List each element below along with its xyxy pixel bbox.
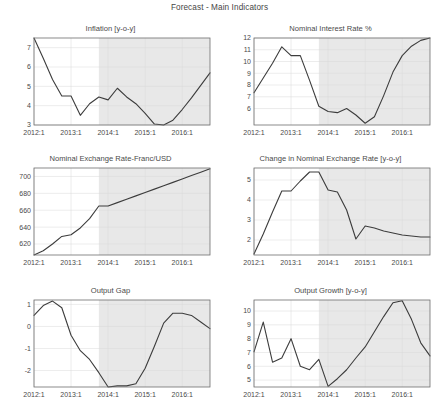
x-axis-tick-label: 2014:1	[97, 259, 119, 266]
chart-svg: 6206406606807002012:12013:12014:12015:12…	[8, 165, 213, 270]
plot-area: 67891011122012:12013:12014:12015:12016:1	[228, 35, 433, 140]
y-axis-tick-label: 2	[247, 236, 251, 243]
y-axis-tick-label: 10	[243, 58, 251, 65]
panel-title: Nominal Exchange Rate-Franc/USD	[8, 154, 213, 163]
y-axis-tick-label: 7	[247, 349, 251, 356]
x-axis-tick-label: 2013:1	[60, 259, 82, 266]
x-axis-tick-label: 2016:1	[391, 391, 413, 398]
y-axis-tick-label: 11	[244, 46, 251, 53]
y-axis-tick-label: 680	[19, 190, 31, 197]
x-axis-tick-label: 2014:1	[317, 129, 339, 136]
y-axis-tick-label: 10	[243, 307, 251, 314]
panel-inflation: Inflation [y-o-y] 345672012:12013:12014:…	[8, 24, 213, 140]
y-axis-tick-label: 9	[247, 70, 251, 77]
y-axis-tick-label: 3	[247, 216, 251, 223]
panel-title: Nominal Interest Rate %	[228, 24, 433, 33]
panel-nominal-interest-rate: Nominal Interest Rate % 67891011122012:1…	[228, 24, 433, 140]
y-axis-tick-label: 6	[247, 363, 251, 370]
x-axis-tick-label: 2012:1	[243, 129, 265, 136]
plot-area: 23452012:12013:12014:12015:12016:1	[228, 165, 433, 270]
y-axis-tick-label: 7	[27, 44, 31, 51]
y-axis-tick-label: 8	[247, 335, 251, 342]
panel-nominal-exchange-rate: Nominal Exchange Rate-Franc/USD 62064066…	[8, 154, 213, 270]
plot-area: 345672012:12013:12014:12015:12016:1	[8, 35, 213, 140]
y-axis-tick-label: 3	[27, 121, 31, 128]
plot-area: 56789102012:12013:12014:12015:12016:1	[228, 297, 433, 402]
x-axis-tick-label: 2014:1	[317, 391, 339, 398]
x-axis-tick-label: 2012:1	[23, 391, 45, 398]
x-axis-tick-label: 2014:1	[317, 259, 339, 266]
x-axis-tick-label: 2013:1	[280, 391, 302, 398]
y-axis-tick-label: 6	[247, 105, 251, 112]
panel-output-gap: Output Gap -2-1012012:12013:12014:12015:…	[8, 286, 213, 402]
x-axis-tick-label: 2014:1	[97, 391, 119, 398]
x-axis-tick-label: 2014:1	[97, 129, 119, 136]
y-axis-tick-label: 8	[247, 81, 251, 88]
y-axis-tick-label: 12	[243, 35, 251, 41]
x-axis-tick-label: 2015:1	[354, 391, 376, 398]
y-axis-tick-label: 4	[27, 102, 31, 109]
panel-change-in-nominal-exchange-rate: Change in Nominal Exchange Rate [y-o-y] …	[228, 154, 433, 270]
panel-title: Change in Nominal Exchange Rate [y-o-y]	[228, 154, 433, 163]
y-axis-tick-label: -1	[25, 345, 31, 352]
x-axis-tick-label: 2013:1	[280, 129, 302, 136]
x-axis-tick-label: 2015:1	[354, 259, 376, 266]
y-axis-tick-label: 5	[247, 176, 251, 183]
chart-svg: 345672012:12013:12014:12015:12016:1	[8, 35, 213, 140]
y-axis-tick-label: 5	[27, 83, 31, 90]
x-axis-tick-label: 2013:1	[280, 259, 302, 266]
chart-svg: 23452012:12013:12014:12015:12016:1	[228, 165, 433, 270]
x-axis-tick-label: 2012:1	[243, 259, 265, 266]
x-axis-tick-label: 2013:1	[60, 129, 82, 136]
x-axis-tick-label: 2016:1	[171, 129, 193, 136]
plot-area: 6206406606807002012:12013:12014:12015:12…	[8, 165, 213, 270]
panel-output-growth: Output Growth [y-o-y] 56789102012:12013:…	[228, 286, 433, 402]
chart-svg: 67891011122012:12013:12014:12015:12016:1	[228, 35, 433, 140]
y-axis-tick-label: 660	[19, 207, 31, 214]
y-axis-tick-label: 7	[247, 93, 251, 100]
y-axis-tick-label: -2	[25, 367, 31, 374]
x-axis-tick-label: 2013:1	[60, 391, 82, 398]
panel-title: Output Growth [y-o-y]	[228, 286, 433, 295]
y-axis-tick-label: 6	[27, 63, 31, 70]
chart-svg: 56789102012:12013:12014:12015:12016:1	[228, 297, 433, 402]
y-axis-tick-label: 4	[247, 196, 251, 203]
panel-title: Inflation [y-o-y]	[8, 24, 213, 33]
y-axis-tick-label: 5	[247, 376, 251, 383]
x-axis-tick-label: 2016:1	[171, 259, 193, 266]
x-axis-tick-label: 2015:1	[134, 391, 156, 398]
y-axis-tick-label: 620	[19, 240, 31, 247]
x-axis-tick-label: 2016:1	[391, 259, 413, 266]
plot-area: -2-1012012:12013:12014:12015:12016:1	[8, 297, 213, 402]
y-axis-tick-label: 640	[19, 224, 31, 231]
x-axis-tick-label: 2015:1	[134, 129, 156, 136]
x-axis-tick-label: 2015:1	[134, 259, 156, 266]
x-axis-tick-label: 2016:1	[391, 129, 413, 136]
forecast-figure: Forecast - Main Indicators Inflation [y-…	[0, 0, 439, 409]
panel-title: Output Gap	[8, 286, 213, 295]
figure-title: Forecast - Main Indicators	[0, 3, 439, 12]
y-axis-tick-label: 700	[19, 173, 31, 180]
x-axis-tick-label: 2012:1	[23, 129, 45, 136]
x-axis-tick-label: 2015:1	[354, 129, 376, 136]
x-axis-tick-label: 2012:1	[23, 259, 45, 266]
y-axis-tick-label: 0	[27, 323, 31, 330]
y-axis-tick-label: 9	[247, 321, 251, 328]
chart-svg: -2-1012012:12013:12014:12015:12016:1	[8, 297, 213, 402]
y-axis-tick-label: 1	[27, 301, 31, 308]
x-axis-tick-label: 2016:1	[171, 391, 193, 398]
x-axis-tick-label: 2012:1	[243, 391, 265, 398]
